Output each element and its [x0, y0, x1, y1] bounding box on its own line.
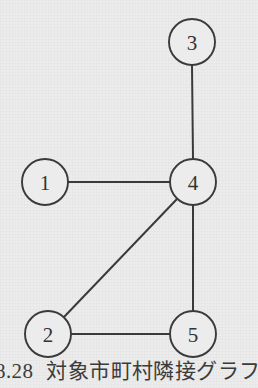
graph-node-1[interactable]: 1: [22, 159, 68, 205]
node-label-1: 1: [40, 171, 51, 195]
graph-node-2[interactable]: 2: [25, 311, 71, 357]
graph-node-3[interactable]: 3: [169, 19, 215, 65]
node-label-3: 3: [187, 31, 198, 55]
edge-3-4: [192, 65, 193, 159]
adjacency-graph: 3 1 4 2 5: [0, 0, 258, 358]
node-label-2: 2: [43, 323, 54, 347]
figure-caption-text: 対象市町村隣接グラフ: [46, 359, 258, 383]
node-label-4: 4: [188, 171, 199, 195]
edge-2-4: [64, 199, 177, 317]
figure-page: 3 1 4 2 5 8.28対象市町村隣接グラフ: [0, 0, 258, 388]
graph-node-5[interactable]: 5: [170, 311, 216, 357]
graph-edges: [64, 65, 193, 334]
node-label-5: 5: [188, 323, 199, 347]
graph-node-4[interactable]: 4: [170, 159, 216, 205]
graph-nodes: 3 1 4 2 5: [22, 19, 216, 357]
figure-caption: 8.28対象市町村隣接グラフ: [0, 355, 258, 388]
figure-caption-number: 8.28: [0, 359, 33, 383]
